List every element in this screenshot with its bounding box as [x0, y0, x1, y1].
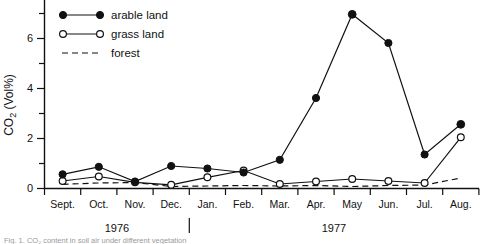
- year-group-row: 1976 1977: [105, 218, 346, 234]
- x-axis-ticks: [45, 189, 479, 196]
- y-tick-label-6: 6: [27, 32, 33, 44]
- chart-legend: arable land grass land forest: [59, 9, 168, 59]
- grass-land-point-dec: [168, 181, 175, 188]
- x-label-mar: Mar.: [270, 198, 290, 210]
- legend-item-arable-land[interactable]: arable land: [59, 9, 168, 21]
- grass-land-point-sept: [59, 178, 66, 185]
- x-label-jan: Jan.: [197, 198, 217, 210]
- legend-label-grass-land: grass land: [111, 28, 164, 40]
- x-label-dec: Dec.: [160, 198, 182, 210]
- grass-land-point-jun: [385, 178, 392, 185]
- chart-svg: 0 2 4 6 CO2 (Vol%): [0, 0, 484, 244]
- y-axis-title: CO2 (Vol%): [2, 74, 18, 136]
- legend-label-forest: forest: [111, 47, 141, 59]
- svg-text:CO2 (Vol%): CO2 (Vol%): [2, 74, 18, 136]
- grass-land-point-may: [349, 176, 356, 183]
- legend-marker-arable-land-right: [96, 11, 103, 18]
- y-axis: 0 2 4 6: [27, 0, 45, 194]
- figure-caption-text: Fig. 1. CO₂ content in soil air under di…: [4, 236, 186, 244]
- grass-land-point-apr: [313, 178, 320, 185]
- x-label-apr: Apr.: [307, 198, 326, 210]
- y-axis-title-unit: (Vol%): [2, 74, 16, 113]
- arable-land-point-nov: [131, 178, 138, 185]
- arable-land-point-dec: [168, 162, 175, 169]
- y-tick-label-2: 2: [27, 132, 33, 144]
- series-grass-land: [59, 134, 464, 188]
- x-label-sept: Sept.: [50, 198, 75, 210]
- grass-land-point-jul: [421, 180, 428, 187]
- arable-land-point-jul: [421, 151, 428, 158]
- arable-land-point-sept: [59, 171, 66, 178]
- arable-land-point-oct: [95, 163, 102, 170]
- grass-land-point-jan: [204, 174, 211, 181]
- co2-soil-air-line-chart: 0 2 4 6 CO2 (Vol%): [0, 0, 484, 244]
- y-axis-title-main: CO: [2, 118, 16, 136]
- legend-item-grass-land[interactable]: grass land: [60, 28, 164, 40]
- figure-caption: Fig. 1. CO₂ content in soil air under di…: [4, 236, 186, 244]
- grass-land-point-aug: [457, 134, 464, 141]
- arable-land-point-jun: [385, 39, 392, 46]
- year-label-1976: 1976: [105, 222, 129, 234]
- arable-land-point-aug: [457, 120, 465, 128]
- y-tick-label-4: 4: [27, 82, 33, 94]
- year-label-1977: 1977: [322, 222, 346, 234]
- x-label-aug: Aug.: [450, 198, 472, 210]
- arable-land-point-mar: [276, 156, 283, 163]
- grass-land-point-mar: [276, 181, 283, 188]
- legend-marker-grass-land-left: [60, 31, 67, 38]
- grass-land-line: [63, 137, 461, 185]
- arable-land-point-may: [348, 10, 356, 18]
- arable-land-point-feb: [240, 169, 247, 176]
- arable-land-point-jan: [204, 165, 211, 172]
- x-axis: Sept. Oct. Nov. Dec. Jan. Feb. Mar. Apr.…: [45, 189, 480, 211]
- grass-land-point-oct: [95, 173, 102, 180]
- x-label-may: May: [342, 198, 363, 210]
- x-label-jul: Jul.: [416, 198, 432, 210]
- legend-marker-grass-land-right: [97, 31, 104, 38]
- x-axis-month-labels: Sept. Oct. Nov. Dec. Jan. Feb. Mar. Apr.…: [50, 198, 471, 210]
- legend-marker-arable-land-left: [59, 11, 66, 18]
- x-label-jun: Jun.: [378, 198, 398, 210]
- x-label-feb: Feb.: [233, 198, 254, 210]
- legend-label-arable-land: arable land: [111, 9, 168, 21]
- y-tick-label-0: 0: [27, 182, 33, 194]
- arable-land-point-apr: [312, 94, 319, 101]
- x-label-oct: Oct.: [89, 198, 108, 210]
- x-label-nov: Nov.: [125, 198, 146, 210]
- legend-item-forest[interactable]: forest: [62, 47, 141, 59]
